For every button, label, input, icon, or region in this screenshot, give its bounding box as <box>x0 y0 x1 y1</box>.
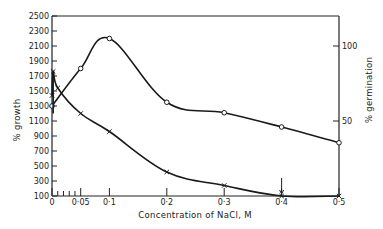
growth-point <box>337 140 342 145</box>
ticks: 1003005007009001100130015001700190021002… <box>29 12 358 207</box>
chart: 1003005007009001100130015001700190021002… <box>0 0 383 229</box>
x-tick-label: 0·1 <box>103 198 116 207</box>
x-tick-label: 0·4 <box>275 198 288 207</box>
y-tick-label: 700 <box>34 147 49 156</box>
y-axis-label: % growth <box>12 99 22 142</box>
germination-point <box>79 111 83 115</box>
y-tick-label: 500 <box>34 162 49 171</box>
y-tick-label: 2100 <box>29 42 49 51</box>
germination-point <box>107 129 111 133</box>
y-tick-label: 300 <box>34 177 49 186</box>
y-tick-label: 1100 <box>29 117 49 126</box>
x-tick-label: 0·3 <box>218 198 231 207</box>
series-line-growth <box>52 38 339 143</box>
x-tick-label: 0·5 <box>333 198 346 207</box>
x-axis-label: Concentration of NaCl, M <box>138 210 252 220</box>
series <box>50 36 342 198</box>
y-tick-label: 1300 <box>29 102 49 111</box>
y2-axis-label: % germination <box>364 57 374 123</box>
y2-tick-label: 50 <box>342 117 352 126</box>
y-tick-label: 900 <box>34 132 49 141</box>
series-line-germination <box>52 71 339 196</box>
y2-tick-label: 100 <box>342 42 357 51</box>
growth-point <box>78 66 83 71</box>
growth-point <box>165 100 170 105</box>
y-tick-label: 100 <box>34 192 49 201</box>
growth-point <box>222 110 227 115</box>
y-tick-label: 2300 <box>29 27 49 36</box>
growth-point <box>107 36 112 41</box>
y-tick-label: 1500 <box>29 87 49 96</box>
x-tick-label: 0·2 <box>160 198 173 207</box>
y-tick-label: 1700 <box>29 72 49 81</box>
y-tick-label: 2500 <box>29 12 49 21</box>
x-tick-label: 0 <box>49 198 54 207</box>
y-tick-label: 1900 <box>29 57 49 66</box>
x-tick-label: 0·05 <box>72 198 90 207</box>
growth-point <box>279 125 284 130</box>
